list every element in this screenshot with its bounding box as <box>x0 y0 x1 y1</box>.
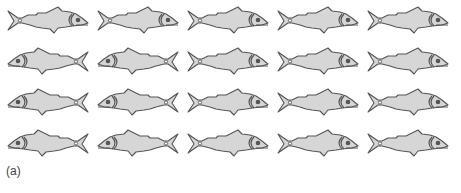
fish-icon <box>366 6 450 34</box>
fish-tail-ring <box>164 142 167 145</box>
fish-tail-ring <box>198 142 201 145</box>
fish-right-facing <box>366 88 450 116</box>
fish-right-facing <box>276 47 360 75</box>
fish-icon <box>366 88 450 116</box>
fish-eye <box>166 18 171 23</box>
fish-eye <box>346 59 351 64</box>
fish-tail-ring <box>108 19 111 22</box>
fish-tail-ring <box>378 19 381 22</box>
fish-eye <box>16 59 21 64</box>
fish-right-facing <box>276 88 360 116</box>
fish-icon <box>96 129 180 157</box>
fish-eye <box>16 141 21 146</box>
fish-eye <box>106 59 111 64</box>
fish-eye <box>436 141 441 146</box>
fish-icon <box>276 47 360 75</box>
fish-tail-ring <box>378 101 381 104</box>
fish-eye <box>346 141 351 146</box>
fish-right-facing <box>276 6 360 34</box>
fish-tail-ring <box>198 60 201 63</box>
fish-right-facing <box>186 88 270 116</box>
fish-tail-ring <box>18 19 21 22</box>
fish-icon <box>6 88 90 116</box>
fish-tail-ring <box>74 60 77 63</box>
fish-right-facing <box>276 129 360 157</box>
fish-left-facing <box>96 88 180 116</box>
fish-icon <box>6 129 90 157</box>
fish-icon <box>186 129 270 157</box>
fish-left-facing <box>96 129 180 157</box>
fish-icon <box>96 6 180 34</box>
fish-eye <box>346 18 351 23</box>
fish-right-facing <box>6 6 90 34</box>
fish-icon <box>276 6 360 34</box>
fish-icon <box>6 6 90 34</box>
fish-tail-ring <box>288 60 291 63</box>
fish-tail-ring <box>378 142 381 145</box>
fish-icon <box>186 6 270 34</box>
fish-icon <box>96 88 180 116</box>
fish-eye <box>436 100 441 105</box>
fish-tail-ring <box>198 101 201 104</box>
fish-left-facing <box>6 47 90 75</box>
fish-left-facing <box>6 129 90 157</box>
fish-eye <box>256 18 261 23</box>
fish-eye <box>256 100 261 105</box>
fish-icon <box>186 47 270 75</box>
fish-right-facing <box>366 129 450 157</box>
fish-icon <box>276 129 360 157</box>
fish-right-facing <box>186 47 270 75</box>
fish-icon <box>366 129 450 157</box>
fish-icon <box>276 88 360 116</box>
fish-tail-ring <box>74 101 77 104</box>
fish-tail-ring <box>164 60 167 63</box>
fish-right-facing <box>186 129 270 157</box>
fish-eye <box>256 59 261 64</box>
fish-tail-ring <box>288 101 291 104</box>
fish-eye <box>106 141 111 146</box>
fish-tail-ring <box>288 19 291 22</box>
fish-tail-ring <box>74 142 77 145</box>
fish-left-facing <box>6 88 90 116</box>
fish-icon <box>186 88 270 116</box>
fish-eye <box>76 18 81 23</box>
fish-right-facing <box>366 6 450 34</box>
fish-eye <box>346 100 351 105</box>
fish-eye <box>436 59 441 64</box>
fish-left-facing <box>96 47 180 75</box>
fish-eye <box>256 141 261 146</box>
fish-icon <box>366 47 450 75</box>
fish-tail-ring <box>378 60 381 63</box>
fish-tail-ring <box>198 19 201 22</box>
fish-icon <box>6 47 90 75</box>
fish-right-facing <box>366 47 450 75</box>
fish-eye <box>16 100 21 105</box>
fish-right-facing <box>96 6 180 34</box>
fish-tail-ring <box>164 101 167 104</box>
fish-eye <box>106 100 111 105</box>
fish-grid <box>0 0 461 193</box>
fish-icon <box>96 47 180 75</box>
figure-label: (a) <box>6 164 21 178</box>
fish-eye <box>436 18 441 23</box>
fish-right-facing <box>186 6 270 34</box>
fish-tail-ring <box>288 142 291 145</box>
